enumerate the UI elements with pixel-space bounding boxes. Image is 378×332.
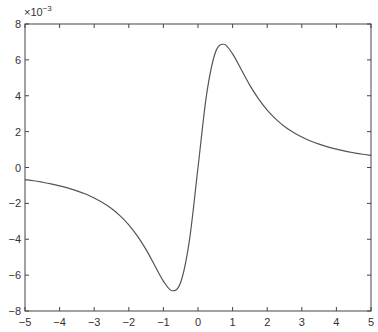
y-tick-label: 2 <box>15 126 21 138</box>
y-tick-label: 8 <box>15 18 21 30</box>
x-tick-label: −3 <box>88 316 101 328</box>
x-tick-label: 4 <box>333 316 339 328</box>
y-tick-label: −2 <box>8 197 21 209</box>
y-tick-label: −8 <box>8 305 21 317</box>
y-axis-ticks: −8−6−4−202468 <box>8 18 371 317</box>
x-axis-ticks: −5−4−3−2−1012345 <box>19 24 374 328</box>
x-tick-label: −1 <box>157 316 170 328</box>
data-line <box>25 44 371 291</box>
x-tick-label: −2 <box>123 316 136 328</box>
x-tick-label: −4 <box>53 316 66 328</box>
line-chart: −5−4−3−2−1012345 −8−6−4−202468 ×10−3 <box>0 0 378 332</box>
y-tick-label: 0 <box>15 162 21 174</box>
x-tick-label: 2 <box>264 316 270 328</box>
y-axis-multiplier: ×10−3 <box>24 4 52 18</box>
x-tick-label: 3 <box>299 316 305 328</box>
y-tick-label: 4 <box>15 90 21 102</box>
x-tick-label: −5 <box>19 316 32 328</box>
y-tick-label: −4 <box>8 233 21 245</box>
y-tick-label: −6 <box>8 269 21 281</box>
y-tick-label: 6 <box>15 54 21 66</box>
x-tick-label: 0 <box>195 316 201 328</box>
x-tick-label: 1 <box>230 316 236 328</box>
x-tick-label: 5 <box>368 316 374 328</box>
